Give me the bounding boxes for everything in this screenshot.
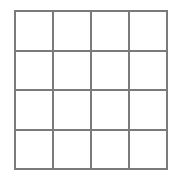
grid-cell-r3-c4[interactable] <box>130 91 168 131</box>
grid-cell-r4-c2[interactable] <box>54 131 92 171</box>
grid-cell-r2-c2[interactable] <box>54 52 92 92</box>
grid-table <box>14 10 168 170</box>
grid-cell-r1-c1[interactable] <box>16 12 54 52</box>
grid-cell-r1-c4[interactable] <box>130 12 168 52</box>
grid-cell-r3-c1[interactable] <box>16 91 54 131</box>
grid-cell-r2-c4[interactable] <box>130 52 168 92</box>
grid-cell-r2-c3[interactable] <box>92 52 130 92</box>
grid-cell-r4-c1[interactable] <box>16 131 54 171</box>
figure-canvas <box>0 0 176 177</box>
grid-cell-r3-c3[interactable] <box>92 91 130 131</box>
grid-cell-r4-c3[interactable] <box>92 131 130 171</box>
grid-cell-r1-c2[interactable] <box>54 12 92 52</box>
grid-cell-r3-c2[interactable] <box>54 91 92 131</box>
grid-cell-r1-c3[interactable] <box>92 12 130 52</box>
grid-cell-r2-c1[interactable] <box>16 52 54 92</box>
grid-cell-r4-c4[interactable] <box>130 131 168 171</box>
